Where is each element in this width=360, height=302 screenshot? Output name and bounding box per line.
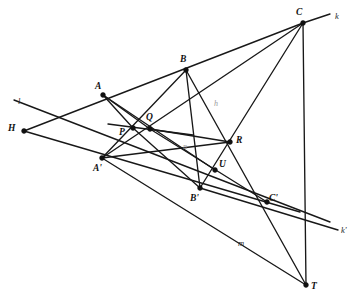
- point-label-A: A: [95, 82, 101, 92]
- vertex-H: [22, 129, 27, 134]
- point-label-Q: Q: [146, 113, 153, 123]
- line-B-to-P-extended-to-A-prime: [102, 70, 186, 158]
- point-label-C: C: [296, 8, 302, 18]
- point-label-U: U: [219, 160, 226, 170]
- line-H-to-A-extended-to-B-and-C: [24, 23, 303, 131]
- line-A-prime-to-T-through-B-prime: [102, 158, 306, 285]
- segments-group: [14, 14, 338, 285]
- vertex-B: [184, 68, 189, 73]
- vertex-A: [101, 93, 106, 98]
- geometry-canvas: [0, 0, 360, 302]
- line-Q-to-R-segment: [150, 129, 230, 142]
- point-label-A-prime: A': [93, 164, 102, 174]
- line-B-to-T-through-R: [186, 70, 306, 285]
- vertex-P: [131, 126, 136, 131]
- line-label-h: h: [214, 100, 218, 108]
- point-label-B: B: [180, 55, 186, 65]
- line-label-l: l: [18, 97, 20, 106]
- line-label-k: k: [335, 12, 339, 21]
- point-label-H: H: [8, 124, 15, 134]
- line-label-n: n: [183, 143, 187, 151]
- point-label-P: P: [119, 128, 125, 138]
- line-label-k-prime: k': [341, 226, 347, 235]
- vertex-T: [304, 283, 309, 288]
- vertex-Q: [148, 127, 153, 132]
- line-B-to-B-prime-through-R-area: [186, 70, 200, 188]
- vertex-A-prime: [100, 156, 105, 161]
- line-l-through-A-prime-to-C-prime: [14, 100, 330, 222]
- vertex-C: [301, 21, 306, 26]
- point-label-C-prime: C': [269, 194, 278, 204]
- vertex-U: [213, 168, 218, 173]
- line-k-through-C: [303, 14, 330, 23]
- point-label-B-prime: B': [190, 194, 199, 204]
- vertex-R: [228, 140, 233, 145]
- vertices-group: [22, 21, 309, 288]
- point-label-T: T: [311, 282, 317, 292]
- point-label-R: R: [236, 136, 242, 146]
- line-label-m: m: [238, 239, 244, 248]
- line-C-to-T-through-C-prime: [303, 23, 306, 285]
- geometry-diagram: HABCPQRUA'B'C'T lkk'mnh: [0, 0, 360, 302]
- vertex-B-prime: [198, 186, 203, 191]
